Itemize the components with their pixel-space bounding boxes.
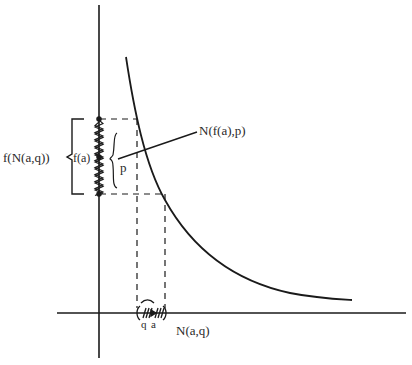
label-f-N-a-q: f(N(a,q)): [3, 150, 50, 165]
label-p: p: [120, 160, 127, 175]
label-a: a: [151, 318, 156, 330]
neighborhood-diagram: f(N(a,q)) f(a) p N(f(a),p) q a N(a,q): [0, 0, 412, 365]
y-interval-top-dot: [97, 117, 101, 121]
y-interval-bottom-dot: [97, 192, 101, 196]
function-curve: [126, 57, 352, 300]
x-neighborhood-hatching: [137, 300, 166, 320]
label-f-a: f(a): [73, 151, 90, 165]
leader-line: [118, 132, 197, 159]
q-arc: [141, 300, 154, 303]
dashed-guides: [100, 119, 165, 308]
p-brace: [110, 133, 117, 188]
label-N-a-q: N(a,q): [176, 323, 210, 338]
label-q: q: [141, 318, 147, 330]
label-N-f-a-p: N(f(a),p): [199, 123, 246, 138]
y-neighborhood-hatching: [95, 117, 103, 196]
y-interval-mid-dot: [97, 155, 101, 159]
